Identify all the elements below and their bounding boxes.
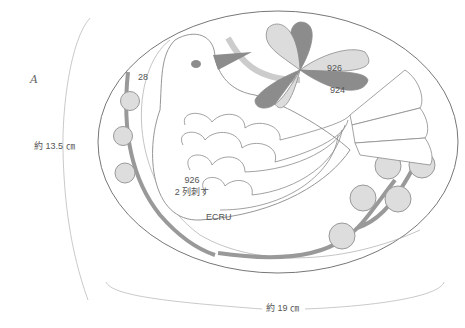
embroidery-diagram <box>0 0 465 328</box>
width-dimension-line-left <box>106 282 262 309</box>
width-dimension-label: 約 19 ㎝ <box>266 304 299 313</box>
thread-label-body: ECRU <box>206 213 232 222</box>
thread-label-wing-note: 2 列刺す <box>166 188 218 197</box>
thread-label-outline: 28 <box>138 73 148 82</box>
berry <box>114 127 133 146</box>
width-dimension-line-right <box>305 282 444 309</box>
figure-label: A <box>30 74 38 85</box>
berry <box>115 163 135 183</box>
bird-eye <box>191 60 201 68</box>
berry <box>121 92 140 111</box>
thread-label-926: 926 <box>327 64 342 73</box>
thread-label-924: 924 <box>330 86 345 95</box>
height-dimension-line <box>63 18 90 300</box>
height-dimension-label: 約 13.5 ㎝ <box>34 142 75 151</box>
thread-label-wing-number: 926 <box>172 176 212 185</box>
berry <box>385 186 411 212</box>
berry <box>350 185 376 211</box>
berry <box>329 223 355 249</box>
